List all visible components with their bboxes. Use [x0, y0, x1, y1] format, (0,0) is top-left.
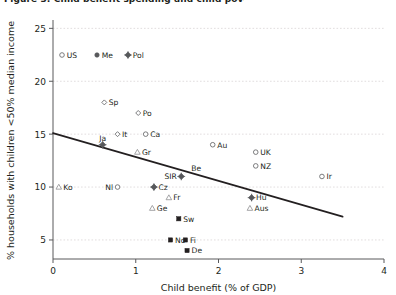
marker-ir: [320, 174, 325, 179]
marker-fi: [183, 238, 187, 242]
point-label-ja: Ja: [98, 134, 106, 143]
y-tick-label-5: 5: [40, 235, 46, 245]
data-point-uk: UK: [253, 148, 271, 157]
point-label-it: It: [122, 130, 127, 139]
data-point-fr: Fr: [166, 193, 181, 202]
x-tick-label-4: 4: [381, 266, 387, 276]
legend-marker-me: [95, 53, 99, 57]
data-point-sp: Sp: [102, 98, 119, 107]
point-label-fr: Fr: [173, 193, 181, 202]
y-tick-label-25: 25: [35, 24, 46, 34]
point-label-ir: Ir: [326, 172, 332, 181]
legend-label-me: Me: [102, 51, 114, 60]
point-label-de: De: [192, 246, 203, 255]
point-label-au: Au: [217, 141, 227, 150]
marker-aus: [247, 205, 253, 210]
marker-it: [115, 132, 120, 137]
marker-ca: [143, 132, 148, 137]
data-point-ge: Ge: [150, 204, 168, 213]
data-points-group: KoJaSpItNlPoGrCaCzGeFrNoSIRSwFiDeBeAuAus…: [56, 98, 333, 255]
point-label-nz: NZ: [260, 162, 271, 171]
marker-sp: [102, 100, 107, 105]
x-tick-label-1: 1: [133, 266, 139, 276]
data-point-ir: Ir: [320, 172, 333, 181]
legend-group: USMePol: [60, 51, 144, 60]
legend-entry-me: Me: [95, 51, 114, 60]
data-point-ko: Ko: [56, 183, 73, 192]
point-label-sp: Sp: [109, 98, 119, 107]
x-tick-label-0: 0: [50, 266, 56, 276]
point-label-sw: Sw: [183, 215, 194, 224]
point-label-be: Be: [191, 164, 201, 173]
point-label-nl: Nl: [105, 183, 113, 192]
point-label-hu: Hu: [256, 193, 267, 202]
y-tick-label-10: 10: [35, 182, 47, 192]
legend-marker-us: [60, 53, 65, 58]
marker-po: [136, 110, 141, 115]
point-label-ge: Ge: [157, 204, 168, 213]
point-label-aus: Aus: [254, 204, 268, 213]
marker-sw: [177, 217, 181, 221]
data-point-au: Au: [210, 141, 227, 150]
point-label-gr: Gr: [142, 148, 152, 157]
data-point-aus: Aus: [247, 204, 268, 213]
x-tick-label-3: 3: [298, 266, 304, 276]
y-tick-label-20: 20: [35, 77, 47, 87]
point-label-uk: UK: [260, 148, 272, 157]
data-point-gr: Gr: [135, 148, 152, 157]
y-axis-title: % households with children <50% median i…: [5, 21, 16, 260]
legend-entry-us: US: [60, 51, 78, 60]
data-point-po: Po: [136, 109, 152, 118]
x-axis-title: Child benefit (% of GDP): [161, 282, 277, 293]
legend-label-pol: Pol: [133, 51, 144, 60]
marker-ge: [150, 205, 156, 210]
x-tick-label-2: 2: [216, 266, 222, 276]
marker-no: [168, 238, 172, 242]
legend-entry-pol: Pol: [124, 51, 144, 60]
tick-labels-group: 51015202501234: [35, 24, 388, 276]
marker-nl: [115, 185, 120, 190]
marker-gr: [135, 149, 141, 154]
figure-container: Figure 3: Child benefit spending and chi…: [0, 0, 396, 295]
point-label-sir: SIR: [164, 172, 177, 181]
axis-titles-group: Child benefit (% of GDP)% households wit…: [5, 21, 276, 293]
marker-fr: [166, 195, 172, 200]
figure-title: Figure 3: Child benefit spending and chi…: [4, 0, 244, 4]
data-point-it: It: [115, 130, 127, 139]
data-point-sir: SIR: [164, 172, 185, 181]
y-tick-label-15: 15: [35, 130, 46, 140]
trend-line: [53, 133, 343, 217]
point-label-ko: Ko: [63, 183, 73, 192]
legend-label-us: US: [67, 51, 78, 60]
data-point-nl: Nl: [105, 183, 120, 192]
marker-nz: [253, 164, 258, 169]
point-label-fi: Fi: [190, 236, 196, 245]
data-point-hu: Hu: [248, 193, 267, 202]
point-label-po: Po: [143, 109, 152, 118]
data-point-nz: NZ: [253, 162, 271, 171]
data-point-be: Be: [191, 164, 201, 173]
point-label-cz: Cz: [158, 183, 167, 192]
data-point-ca: Ca: [143, 130, 160, 139]
data-point-de: De: [185, 246, 202, 255]
trendline-group: [53, 133, 343, 217]
marker-au: [210, 142, 215, 147]
scatter-plot: 51015202501234 KoJaSpItNlPoGrCaCzGeFrNoS…: [0, 0, 396, 295]
marker-de: [185, 248, 189, 252]
data-point-sw: Sw: [177, 215, 195, 224]
marker-uk: [253, 150, 258, 155]
data-point-cz: Cz: [150, 183, 168, 192]
point-label-ca: Ca: [150, 130, 160, 139]
